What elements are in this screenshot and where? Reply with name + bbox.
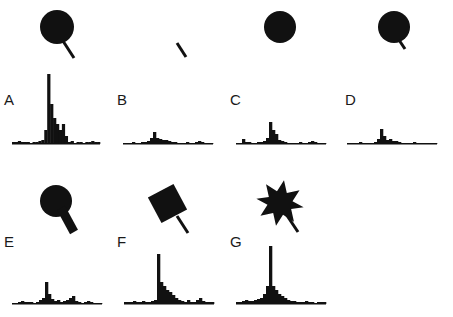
panel-f: F (117, 184, 214, 305)
panel-label-e: E (4, 233, 14, 250)
panel-label-a: A (4, 91, 14, 108)
panel-label-f: F (117, 233, 126, 250)
panel-e: E (4, 185, 102, 305)
panel-g: G (230, 176, 326, 304)
figure-canvas: A B C D E (0, 0, 453, 317)
stimulus-circle-with-thick-stub-icon (40, 185, 74, 232)
histogram-a (12, 74, 100, 145)
panel-label-d: D (345, 91, 356, 108)
stimulus-stick-icon (177, 43, 186, 57)
panel-c: C (230, 11, 326, 145)
panel-d: D (345, 11, 437, 145)
histogram-e (12, 282, 102, 305)
panel-label-g: G (230, 233, 242, 250)
stimulus-circle-with-stick-icon (40, 10, 74, 58)
stimulus-circle-icon (264, 11, 296, 43)
panel-label-c: C (230, 91, 241, 108)
histogram-c (236, 122, 326, 145)
panel-label-b: B (117, 91, 127, 108)
stimulus-star-with-stick-icon (252, 176, 307, 232)
histogram-g (236, 246, 326, 305)
panel-b: B (117, 43, 213, 145)
stimulus-square-with-stick-icon (148, 184, 188, 233)
histogram-b (123, 132, 213, 145)
panel-a: A (4, 10, 100, 145)
histogram-d (347, 129, 437, 145)
stimulus-circle-with-short-stick-icon (378, 11, 410, 49)
histogram-f (124, 254, 214, 305)
